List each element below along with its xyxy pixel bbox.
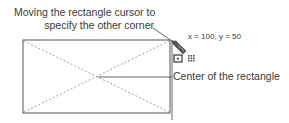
grid-snap-icon xyxy=(188,55,195,62)
cursor-leader-line xyxy=(153,28,172,41)
pencil-cursor-icon xyxy=(172,41,186,54)
cursor-callout-line1: Moving the rectangle cursor to xyxy=(14,6,154,19)
center-callout: Center of the rectangle xyxy=(173,71,280,82)
rectangle-mode-icon xyxy=(174,55,182,62)
cursor-callout: Moving the rectangle cursor to specify t… xyxy=(14,6,154,31)
cursor-callout-line2: specify the other corner xyxy=(14,19,154,32)
coordinates-readout: x = 100, y = 50 xyxy=(188,33,241,41)
